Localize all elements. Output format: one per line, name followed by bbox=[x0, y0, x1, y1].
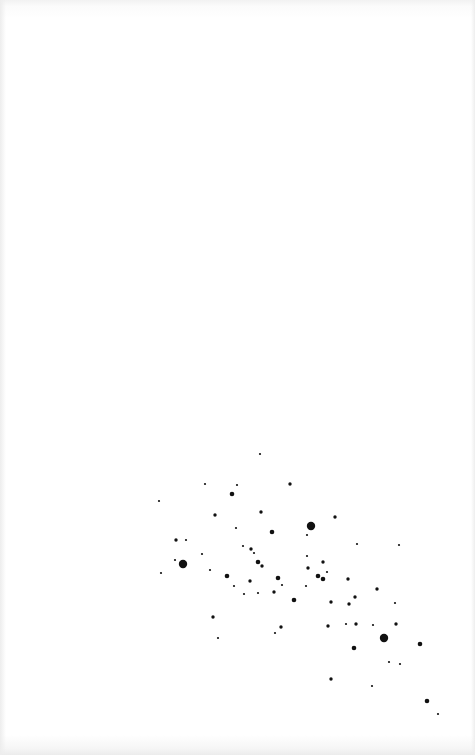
star-dot-small bbox=[249, 547, 252, 550]
star-field bbox=[0, 0, 475, 755]
star-dot-tiny bbox=[437, 713, 439, 715]
star-dot-tiny bbox=[326, 571, 328, 573]
star-dot-tiny bbox=[233, 585, 235, 587]
star-dot-small bbox=[288, 482, 291, 485]
star-dot-tiny bbox=[201, 553, 203, 555]
star-dot-tiny bbox=[235, 527, 237, 529]
star-dot-tiny bbox=[305, 585, 307, 587]
star-dot-tiny bbox=[243, 593, 245, 595]
star-dot-small bbox=[326, 624, 329, 627]
star-dot-tiny bbox=[204, 483, 206, 485]
star-dot-tiny bbox=[306, 555, 308, 557]
star-dot-tiny bbox=[371, 685, 373, 687]
star-dot-small bbox=[260, 564, 263, 567]
star-dot-tiny bbox=[253, 552, 255, 554]
star-dot-medium bbox=[292, 598, 297, 603]
star-dot-tiny bbox=[345, 623, 347, 625]
star-dot-small bbox=[375, 587, 378, 590]
star-dot-small bbox=[347, 602, 350, 605]
star-dot-large bbox=[380, 634, 388, 642]
star-dot-small bbox=[211, 615, 214, 618]
star-dot-tiny bbox=[174, 559, 176, 561]
star-dot-small bbox=[329, 677, 332, 680]
star-dots bbox=[0, 0, 475, 755]
star-dot-medium bbox=[225, 574, 230, 579]
star-dot-small bbox=[353, 595, 356, 598]
star-dot-tiny bbox=[274, 632, 276, 634]
star-dot-tiny bbox=[185, 539, 187, 541]
star-dot-small bbox=[279, 625, 282, 628]
star-dot-tiny bbox=[399, 663, 401, 665]
star-dot-large bbox=[179, 560, 187, 568]
star-dot-medium bbox=[352, 646, 357, 651]
star-dot-tiny bbox=[388, 661, 390, 663]
star-dot-small bbox=[321, 560, 324, 563]
star-dot-small bbox=[213, 513, 216, 516]
star-dot-tiny bbox=[281, 584, 283, 586]
star-dot-tiny bbox=[160, 572, 162, 574]
star-dot-tiny bbox=[394, 602, 396, 604]
star-dot-tiny bbox=[398, 544, 400, 546]
star-dot-large bbox=[307, 522, 315, 530]
star-dot-medium bbox=[230, 492, 235, 497]
star-dot-medium bbox=[418, 642, 423, 647]
star-dot-medium bbox=[321, 577, 326, 582]
star-dot-medium bbox=[276, 576, 281, 581]
star-dot-small bbox=[346, 577, 349, 580]
star-dot-tiny bbox=[257, 592, 259, 594]
star-dot-medium bbox=[316, 574, 321, 579]
star-dot-small bbox=[333, 515, 336, 518]
star-dot-tiny bbox=[158, 500, 160, 502]
star-dot-tiny bbox=[217, 637, 219, 639]
star-dot-tiny bbox=[356, 543, 358, 545]
star-dot-small bbox=[272, 590, 275, 593]
scanned-page bbox=[0, 0, 475, 755]
star-dot-medium bbox=[425, 699, 430, 704]
star-dot-medium bbox=[256, 560, 261, 565]
star-dot-tiny bbox=[372, 624, 374, 626]
star-dot-tiny bbox=[306, 534, 308, 536]
star-dot-tiny bbox=[209, 569, 211, 571]
star-dot-small bbox=[329, 600, 332, 603]
star-dot-small bbox=[354, 622, 357, 625]
star-dot-tiny bbox=[259, 453, 261, 455]
star-dot-small bbox=[394, 622, 397, 625]
star-dot-small bbox=[259, 510, 262, 513]
star-dot-tiny bbox=[236, 484, 238, 486]
star-dot-medium bbox=[270, 530, 275, 535]
star-dot-small bbox=[248, 579, 251, 582]
star-dot-small bbox=[174, 538, 177, 541]
star-dot-tiny bbox=[242, 545, 244, 547]
star-dot-small bbox=[306, 566, 309, 569]
